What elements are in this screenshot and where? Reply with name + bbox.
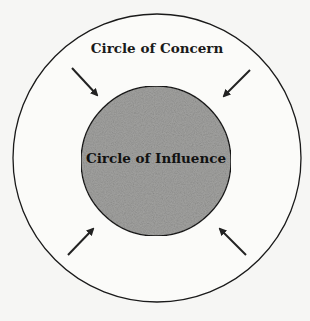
circles-diagram: Circle of Concern Circle of Influence [0,0,310,321]
circle-of-concern-label: Circle of Concern [91,40,223,56]
circle-of-influence-label: Circle of Influence [86,150,226,166]
